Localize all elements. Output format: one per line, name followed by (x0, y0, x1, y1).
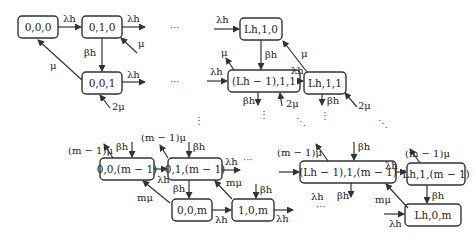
svg-text:(m − 1)μ: (m − 1)μ (141, 132, 186, 143)
svg-text:···: ··· (243, 154, 253, 165)
markov-chain-diagram: 0,0,0 0,1,0 0,0,1 Lh,1,0 (Lh − 1),1,1 Lh… (0, 0, 475, 242)
svg-text:⋱: ⋱ (296, 116, 306, 127)
svg-text:2μ: 2μ (112, 101, 125, 112)
svg-text:λh: λh (216, 14, 229, 25)
state-Lh-1-m-minus-1: Lh,1,(m − 1) (402, 163, 469, 185)
state-Lh-0-m: Lh,0,m (405, 204, 461, 226)
svg-text:λh: λh (127, 69, 140, 80)
svg-text:mμ: mμ (137, 192, 153, 203)
state-0-0-0: 0,0,0 (18, 16, 58, 38)
svg-text:λh: λh (276, 213, 289, 224)
svg-text:(Lh − 1),1,(m − 1): (Lh − 1),1,(m − 1) (299, 166, 397, 178)
state-0-1-m-minus-1: 0,1,(m − 1) (165, 158, 225, 180)
svg-text:⋮: ⋮ (194, 115, 204, 126)
svg-text:⋮: ⋮ (259, 109, 269, 120)
svg-text:0,0,(m − 1): 0,0,(m − 1) (97, 163, 157, 175)
svg-text:···: ··· (316, 201, 326, 212)
svg-text:βh: βh (243, 95, 256, 106)
svg-text:2μ: 2μ (286, 98, 299, 109)
svg-text:0,1,(m − 1): 0,1,(m − 1) (165, 163, 225, 175)
diagram-canvas: 0,0,0 0,1,0 0,0,1 Lh,1,0 (Lh − 1),1,1 Lh… (0, 0, 475, 242)
svg-text:Lh,1,0: Lh,1,0 (244, 23, 278, 35)
svg-text:λh: λh (127, 13, 140, 24)
edges-top-right: λh βh μ λh λh μ βh ⋮ 2μ βh ⋮ 2μ ⋱ ⋱ ⋮ (194, 14, 388, 129)
svg-text:βh: βh (432, 190, 445, 201)
svg-text:···: ··· (170, 22, 180, 33)
state-Lh-1-1: Lh,1,1 (304, 72, 346, 94)
svg-text:βh: βh (193, 141, 206, 152)
svg-text:0,0,0: 0,0,0 (25, 21, 52, 33)
state-1-0-m: 1,0,m (232, 199, 274, 221)
svg-text:βh: βh (84, 47, 97, 58)
svg-text:(m − 1)μ: (m − 1)μ (277, 147, 322, 158)
state-0-0-m: 0,0,m (172, 199, 212, 221)
svg-text:0,0,m: 0,0,m (177, 204, 207, 216)
svg-text:βh: βh (173, 183, 186, 194)
svg-text:(m − 1)μ: (m − 1)μ (405, 148, 450, 159)
state-Lh-1-0: Lh,1,0 (240, 18, 282, 40)
svg-text:λh: λh (215, 214, 228, 225)
svg-text:(Lh − 1),1,1: (Lh − 1),1,1 (232, 75, 296, 87)
state-0-0-m-minus-1: 0,0,(m − 1) (97, 158, 157, 180)
svg-text:0,0,1: 0,0,1 (89, 77, 116, 89)
svg-text:μ: μ (138, 38, 145, 49)
svg-text:βh: βh (337, 190, 350, 201)
state-0-0-1: 0,0,1 (82, 72, 122, 94)
svg-text:λh: λh (157, 174, 170, 185)
svg-text:βh: βh (265, 49, 278, 60)
svg-text:μ: μ (50, 60, 57, 71)
svg-text:μ: μ (221, 47, 228, 58)
svg-text:βh: βh (116, 141, 129, 152)
svg-text:λh: λh (63, 13, 76, 24)
state-Lh-minus-1-1-1: (Lh − 1),1,1 (228, 70, 300, 92)
svg-text:⋮: ⋮ (320, 110, 330, 121)
svg-text:Lh,0,m: Lh,0,m (414, 209, 451, 221)
svg-text:βh: βh (327, 95, 340, 106)
svg-text:μ: μ (301, 48, 308, 59)
svg-text:0,1,0: 0,1,0 (89, 21, 116, 33)
svg-text:βh: βh (260, 184, 273, 195)
svg-text:λh: λh (385, 160, 398, 171)
svg-text:βh: βh (358, 141, 371, 152)
svg-text:⋱: ⋱ (378, 118, 388, 129)
svg-text:Lh,1,1: Lh,1,1 (308, 77, 342, 89)
state-0-1-0: 0,1,0 (82, 16, 122, 38)
svg-text:λh: λh (210, 66, 223, 77)
svg-text:Lh,1,(m − 1): Lh,1,(m − 1) (402, 168, 469, 180)
state-Lh-minus-1-1-m-minus-1: (Lh − 1),1,(m − 1) (299, 161, 397, 183)
svg-text:1,0,m: 1,0,m (238, 204, 268, 216)
svg-text:mμ: mμ (375, 194, 391, 205)
svg-text:2μ: 2μ (358, 100, 371, 111)
svg-text:λh: λh (389, 218, 402, 229)
svg-text:mμ: mμ (226, 177, 242, 188)
svg-text:λh: λh (225, 156, 238, 167)
svg-text:···: ··· (170, 76, 180, 87)
svg-text:(m − 1)μ: (m − 1)μ (68, 145, 113, 156)
